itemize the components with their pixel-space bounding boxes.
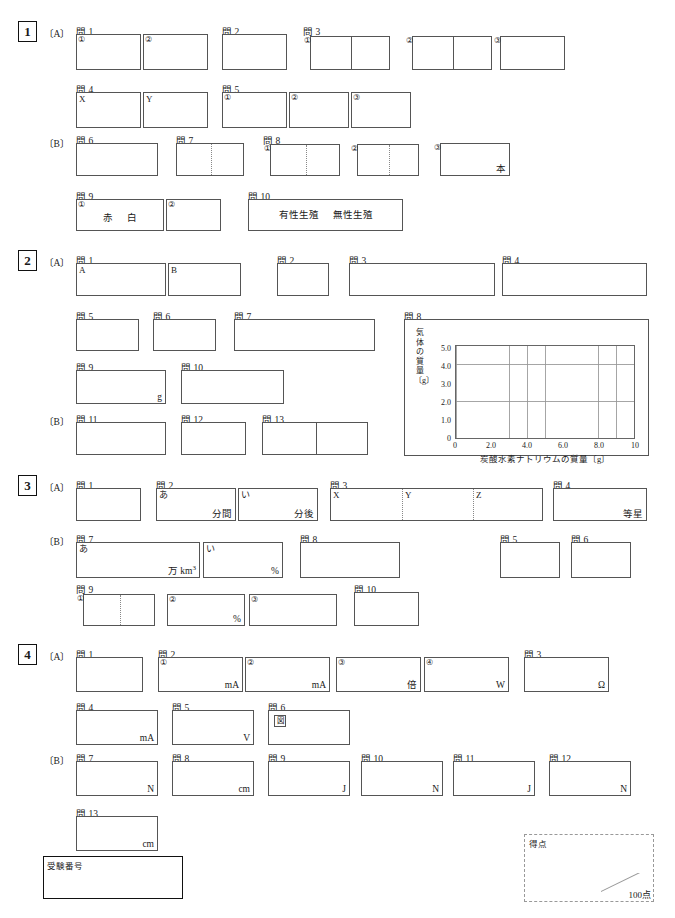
section-number-4: 4 xyxy=(18,644,37,665)
answer-box-s1-q1-1[interactable]: ① xyxy=(76,34,141,70)
answer-box-s3-q7-i[interactable]: い % xyxy=(203,542,283,578)
unit-tousei: 等星 xyxy=(623,509,643,519)
answer-box-s4-q4[interactable]: mA xyxy=(76,710,158,745)
unit-W: W xyxy=(496,680,505,690)
answer-box-s2-q13[interactable] xyxy=(262,422,368,455)
answer-box-s3-q2-a[interactable]: あ 分間 xyxy=(156,488,236,521)
unit-N: N xyxy=(620,784,627,794)
unit-man-km-cubed: 万 km3 xyxy=(168,563,196,576)
marker-b: B xyxy=(171,266,177,275)
section-1-part-b-label: 〔B〕 xyxy=(44,136,69,150)
answer-box-s4-q7[interactable]: N xyxy=(76,761,158,796)
answer-box-s1-q5-2[interactable]: ② xyxy=(289,92,349,128)
answer-box-s1-q8-2[interactable] xyxy=(357,144,419,176)
x-tick-0: 0 xyxy=(447,442,463,450)
unit-percent: % xyxy=(233,614,241,624)
answer-box-s2-q1-b[interactable]: B xyxy=(168,263,241,296)
answer-box-s1-q9-1[interactable]: ① 赤白 xyxy=(76,199,164,231)
unit-funkan: 分間 xyxy=(212,509,232,519)
answer-box-s3-q2-i[interactable]: い 分後 xyxy=(238,488,318,521)
answer-box-s4-q3[interactable]: Ω xyxy=(524,657,609,692)
score-box[interactable]: 得点 100点 xyxy=(524,834,654,902)
answer-box-s4-q13[interactable]: cm xyxy=(76,816,158,851)
score-total-label: 100点 xyxy=(629,888,652,901)
exam-number-box[interactable]: 受験番号 xyxy=(43,856,183,899)
answer-box-s2-q11[interactable] xyxy=(76,422,166,455)
answer-box-s3-q9-3[interactable]: ③ xyxy=(249,594,337,626)
answer-box-s3-q6[interactable] xyxy=(571,542,631,578)
answer-box-s3-q8[interactable] xyxy=(300,542,400,578)
answer-box-s3-q5[interactable] xyxy=(500,542,560,578)
marker-a-hiragana: あ xyxy=(159,491,168,500)
answer-box-s3-q1[interactable] xyxy=(76,488,141,521)
answer-box-s2-q10[interactable] xyxy=(181,370,284,404)
answer-box-s2-q12[interactable] xyxy=(181,422,246,455)
answer-box-s2-q5[interactable] xyxy=(76,319,139,351)
marker-circle-4: ④ xyxy=(426,659,433,667)
answer-box-s4-q11[interactable]: J xyxy=(453,761,535,796)
cell-divider xyxy=(306,145,307,175)
answer-box-s4-q9[interactable]: J xyxy=(268,761,350,796)
answer-box-s1-q6[interactable] xyxy=(76,143,158,176)
answer-box-s4-q2-2[interactable]: ② mA xyxy=(245,657,330,692)
x-tick-10: 10 xyxy=(627,442,643,450)
answer-box-s4-q2-3[interactable]: ③ 倍 xyxy=(336,657,421,692)
answer-box-s3-q3[interactable]: X Y Z xyxy=(330,488,543,521)
answer-box-s4-q2-4[interactable]: ④ W xyxy=(424,657,509,692)
answer-box-s1-q2[interactable] xyxy=(222,34,287,70)
answer-box-s4-q8[interactable]: cm xyxy=(172,761,254,796)
answer-box-s2-q3[interactable] xyxy=(349,263,495,296)
marker-circle-1: ① xyxy=(78,201,85,209)
answer-box-s2-q6[interactable] xyxy=(153,319,216,351)
choice-aka[interactable]: 赤 xyxy=(103,213,113,223)
graph-plot-area[interactable] xyxy=(455,345,635,439)
y-tick-2: 2.0 xyxy=(427,399,451,407)
answer-box-s1-q10[interactable]: 有性生殖無性生殖 xyxy=(248,199,403,231)
cell-divider xyxy=(473,489,474,520)
answer-box-s4-q5[interactable]: V xyxy=(172,710,254,745)
x-tick-2: 2.0 xyxy=(483,442,499,450)
answer-box-s1-q1-2[interactable]: ② xyxy=(143,34,208,70)
answer-box-s4-q10[interactable]: N xyxy=(361,761,443,796)
section-number-3: 3 xyxy=(18,475,37,496)
answer-box-s3-q9-2[interactable]: ② % xyxy=(167,594,245,626)
answer-box-s3-q7-a[interactable]: あ 万 km3 xyxy=(76,542,200,578)
answer-box-s4-q12[interactable]: N xyxy=(549,761,631,796)
exam-number-label: 受験番号 xyxy=(47,859,83,871)
answer-box-s4-q2-1[interactable]: ① mA xyxy=(158,657,243,692)
answer-box-s2-q2[interactable] xyxy=(277,263,329,296)
answer-box-s4-q6[interactable]: 図 xyxy=(268,710,350,745)
marker-circle-2: ② xyxy=(168,201,175,209)
cell-divider xyxy=(316,423,317,454)
answer-box-s3-q9-1[interactable] xyxy=(83,594,155,626)
answer-box-s1-q3-3[interactable] xyxy=(500,36,565,70)
answer-box-s1-q8-3[interactable]: 本 xyxy=(440,143,510,176)
answer-box-s1-q7[interactable] xyxy=(176,143,244,176)
choice-shiro[interactable]: 白 xyxy=(127,213,137,223)
answer-box-s2-q9[interactable]: g xyxy=(76,370,166,404)
answer-box-s1-q3-1[interactable] xyxy=(310,36,390,70)
answer-box-s1-q5-1[interactable]: ① xyxy=(222,92,287,128)
x-tick-8: 8.0 xyxy=(591,442,607,450)
graph-answer-area-s2-q8[interactable]: 気体の質量〔g〕 5.0 4.0 3.0 2.0 1.0 0 0 2.0 4.0… xyxy=(404,319,649,456)
answer-box-s2-q7[interactable] xyxy=(234,319,375,351)
answer-box-s2-q1-a[interactable]: A xyxy=(76,263,166,296)
answer-box-s1-q8-1[interactable] xyxy=(270,144,340,176)
answer-box-s1-q4-x[interactable]: X xyxy=(76,92,141,128)
answer-sheet-page: 1 〔A〕 〔B〕 問 1 ① ② 問 2 問 3 ① ② ③ 問 4 X Y … xyxy=(0,0,675,918)
marker-a: A xyxy=(79,266,86,275)
answer-box-s1-q5-3[interactable]: ③ xyxy=(351,92,411,128)
marker-circle-2: ② xyxy=(406,37,413,45)
choice-yusei-seishoku[interactable]: 有性生殖 xyxy=(279,210,319,220)
answer-box-s3-q10[interactable] xyxy=(354,592,419,626)
answer-box-s2-q4[interactable] xyxy=(502,263,647,296)
unit-fungo: 分後 xyxy=(294,509,314,519)
answer-box-s1-q4-y[interactable]: Y xyxy=(143,92,208,128)
answer-box-s3-q4[interactable]: 等星 xyxy=(553,488,647,521)
unit-percent: % xyxy=(271,566,279,576)
choice-musei-seishoku[interactable]: 無性生殖 xyxy=(333,210,373,220)
answer-box-s4-q1[interactable] xyxy=(76,657,143,692)
answer-box-s1-q9-2[interactable]: ② xyxy=(166,199,221,231)
unit-bai: 倍 xyxy=(407,680,417,690)
answer-box-s1-q3-2[interactable] xyxy=(412,36,492,70)
